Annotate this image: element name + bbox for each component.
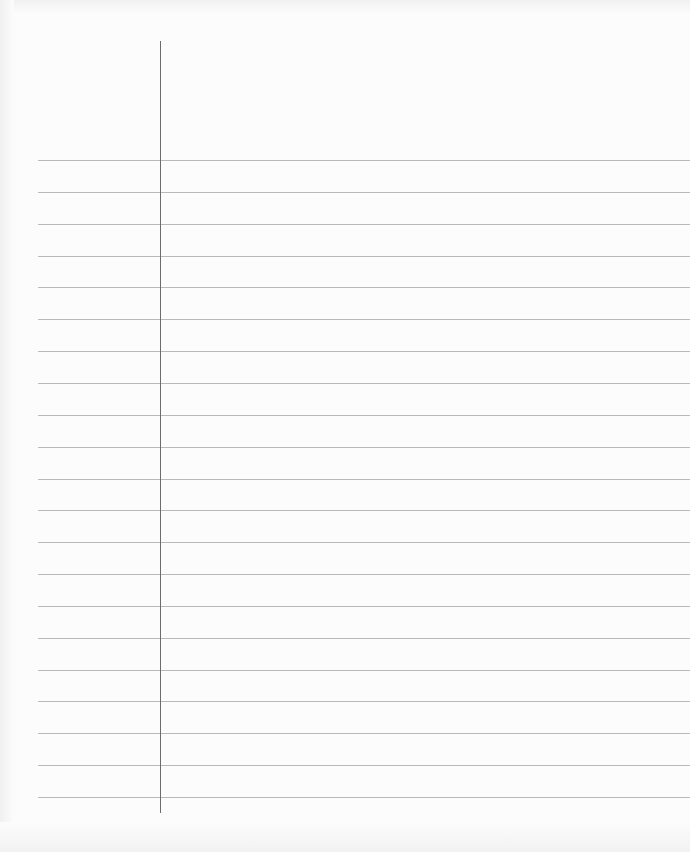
ruled-line (38, 383, 690, 384)
ruled-line (38, 670, 690, 671)
page-left-shadow (0, 0, 14, 852)
ruled-line (38, 319, 690, 320)
ruled-line (38, 192, 690, 193)
ruled-line (38, 479, 690, 480)
ruled-line (38, 701, 690, 702)
ruled-line (38, 733, 690, 734)
ruled-line (38, 797, 690, 798)
ruled-line (38, 351, 690, 352)
ruled-line (38, 510, 690, 511)
page-top-shadow (0, 0, 690, 14)
ruled-line (38, 638, 690, 639)
ruled-line (38, 224, 690, 225)
ruled-line (38, 415, 690, 416)
margin-line (160, 41, 161, 813)
notebook-page (0, 0, 690, 852)
ruled-line (38, 447, 690, 448)
ruled-line (38, 256, 690, 257)
ruled-line (38, 542, 690, 543)
ruled-line (38, 606, 690, 607)
ruled-line (38, 160, 690, 161)
ruled-line (38, 765, 690, 766)
ruled-line (38, 287, 690, 288)
ruled-line (38, 574, 690, 575)
page-bottom-shadow (0, 822, 690, 852)
